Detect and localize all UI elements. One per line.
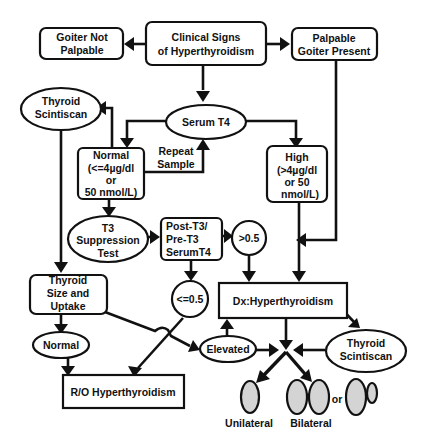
repeat-sample-line2: Sample [157,158,195,170]
normal-t4-line1: Normal [93,149,129,161]
goiter-not-palpable-line2: Palpable [60,44,103,56]
node-thyroid-size-uptake: Thyroid Size and Uptake [30,274,107,314]
label-repeat-sample: Repeat Sample [157,145,195,170]
normal-t4-line4: 50 nmol/L) [85,186,138,198]
ratio-low-label: <=0.5 [177,293,204,305]
palpable-goiter-line2: Goiter Present [298,45,371,57]
node-uptake-normal: Normal [33,332,89,358]
scintiscan-right-line2: Scintiscan [340,350,393,362]
node-thyroid-scintiscan-left: Thyroid Scintiscan [21,88,101,130]
clinical-signs-line2: of Hyperthyroidism [158,45,254,57]
high-t4-line1: High [285,151,308,163]
thyroid-lobe-icon [241,381,259,413]
high-t4-line3: or 50 [284,176,309,188]
high-t4-line4: nmol/L) [281,188,319,200]
unilateral-label: Unilateral [225,417,273,429]
thyroid-lobe-icon [287,380,307,414]
normal-t4-line3: or [106,174,117,186]
bilateral-label: Bilateral [290,417,332,429]
post-pre-line3: SerumT4 [166,246,211,258]
node-goiter-not-palpable: Goiter Not Palpable [40,28,123,59]
connectors [54,37,360,383]
hyperthyroidism-flowchart: Clinical Signs of Hyperthyroidism Goiter… [0,0,422,446]
t3-suppression-line3: Test [98,247,119,259]
scintiscan-left-line1: Thyroid [42,95,81,107]
node-dx-hyperthyroidism: Dx:Hyperthyroidism [219,283,347,318]
goiter-not-palpable-line1: Goiter Not [56,31,108,43]
node-ratio-high: >0.5 [232,221,266,255]
node-thyroid-scintiscan-right: Thyroid Scintiscan [326,330,406,372]
size-uptake-line1: Thyroid [49,274,88,286]
post-pre-line2: Pre-T3 [166,233,199,245]
size-uptake-line2: Size and [47,287,90,299]
node-t3-suppression: T3 Suppression Test [68,216,148,262]
thyroid-lobe-icon [346,379,366,415]
node-palpable-goiter: Palpable Goiter Present [292,28,377,60]
unilateral-illustration: Unilateral [225,381,273,429]
t3-suppression-line1: T3 [102,222,114,234]
ratio-high-label: >0.5 [239,232,260,244]
post-pre-line1: Post-T3/ [166,220,208,232]
repeat-sample-line1: Repeat [158,145,194,157]
ro-hyperthyroidism-label: R/O Hyperthyroidism [70,386,175,398]
node-ratio-low: <=0.5 [172,281,208,317]
node-normal-t4: Normal (<=4µg/dl or 50 nmol/L) [78,148,144,199]
dx-hyperthyroidism-label: Dx:Hyperthyroidism [233,295,333,307]
bilateral-illustration: or Bilateral [287,379,377,429]
node-uptake-elevated: Elevated [200,336,256,362]
serum-t4-label: Serum T4 [182,116,230,128]
high-t4-line2: (>4µg/dl [277,164,317,176]
size-uptake-line3: Uptake [50,300,85,312]
node-post-pre-ratio: Post-T3/ Pre-T3 SerumT4 [161,218,222,260]
t3-suppression-line2: Suppression [76,234,140,246]
node-serum-t4: Serum T4 [166,105,246,139]
thyroid-lobe-icon [309,380,329,414]
node-high-t4: High (>4µg/dl or 50 nmol/L) [267,146,327,202]
scintiscan-left-line2: Scintiscan [35,108,88,120]
scintiscan-right-line1: Thyroid [347,337,386,349]
normal-t4-line2: (<=4µg/dl [88,162,134,174]
node-ro-hyperthyroidism: R/O Hyperthyroidism [63,375,184,408]
palpable-goiter-line1: Palpable [312,32,355,44]
uptake-elevated-label: Elevated [206,343,249,355]
node-clinical-signs: Clinical Signs of Hyperthyroidism [146,22,266,65]
uptake-normal-label: Normal [43,339,79,351]
thyroid-lobe-icon [367,383,377,403]
or-label: or [332,393,343,405]
clinical-signs-line1: Clinical Signs [172,31,241,43]
